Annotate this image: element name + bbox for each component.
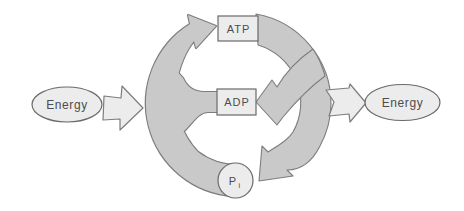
atp-adp-cycle-diagram: Energy ATP ADP P i Energy (0, 0, 464, 211)
adp-input-branch-fill (165, 66, 217, 131)
energy-output-arrow (326, 84, 366, 122)
energy-input-arrow (103, 86, 143, 130)
adp-label: ADP (224, 96, 250, 108)
atp-label: ATP (227, 23, 251, 35)
pi-label: P (229, 175, 237, 187)
energy-input-label: Energy (46, 98, 88, 112)
energy-output-label: Energy (382, 96, 424, 110)
diagram-canvas: Energy ATP ADP P i Energy (0, 0, 464, 211)
